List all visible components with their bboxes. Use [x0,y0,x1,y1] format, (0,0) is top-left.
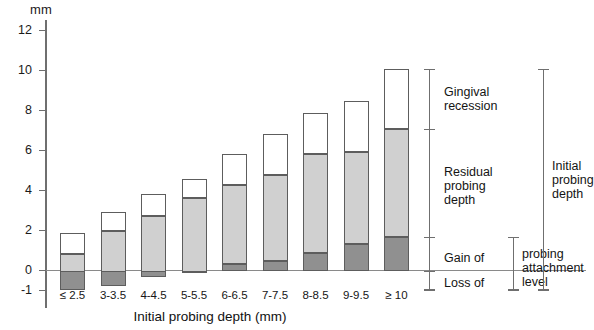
bracket-cap-top [424,69,435,70]
y-tick-2 [39,230,46,231]
bar-8-segment-gingival-recession [384,69,409,129]
bar-1-segment-attachment-level [101,271,126,286]
bracket-cap-top [508,237,519,238]
y-tick-12 [39,30,46,31]
y-tick-label--1: -1 [6,283,32,297]
bar-2-segment-residual-probing-depth [141,216,166,277]
x-category-label-4: 6-6.5 [213,289,256,301]
bar-4-segment-attachment-level [222,264,247,271]
y-tick-0 [39,270,46,271]
x-category-label-7: 9-9.5 [335,289,378,301]
bar-3-segment-gingival-recession [182,179,207,198]
bar-0-segment-gingival-recession [60,233,85,254]
bar-4-segment-gingival-recession [222,154,247,185]
bar-4 [222,154,247,264]
y-tick-10 [39,70,46,71]
y-tick-label-8: 8 [6,103,32,117]
bracket-stem [429,69,430,291]
bracket-cap-bottom [508,289,519,290]
bracket-main-scale [424,69,435,291]
y-tick-label-6: 6 [6,143,32,157]
bar-7-segment-gingival-recession [344,101,369,152]
bar-5 [263,134,288,261]
y-tick--1 [39,290,46,291]
bar-6 [303,113,328,253]
bar-7 [344,101,369,244]
bar-0-segment-attachment-level [60,271,85,290]
bar-8-segment-residual-probing-depth [384,129,409,237]
bracket-mid-tick [424,271,435,272]
bracket-probing-attachment-level [508,237,519,291]
y-axis-line [45,20,47,308]
x-category-label-2: 4-4.5 [132,289,175,301]
bracket-mid-tick [424,237,435,238]
bar-2-segment-attachment-level [141,271,166,277]
y-tick-label-12: 12 [6,23,32,37]
bracket-initial-probing-depth [538,69,549,291]
x-category-label-3: 5-5.5 [173,289,216,301]
bar-4-segment-residual-probing-depth [222,185,247,264]
bracket-cap-top [538,69,549,70]
bar-1-segment-gingival-recession [101,212,126,231]
annotation-label-initial-probing-depth: Initial probing depth [552,159,594,201]
bracket-mid-tick [424,129,435,130]
annotation-label-gain-of: Gain of [444,251,484,265]
x-category-label-0: ≤ 2.5 [51,289,94,301]
y-tick-label-0: 0 [6,263,32,277]
y-tick-label-10: 10 [6,63,32,77]
bar-2 [141,194,166,277]
bar-7-segment-residual-probing-depth [344,152,369,244]
y-tick-6 [39,150,46,151]
bar-6-segment-gingival-recession [303,113,328,154]
bar-8 [384,69,409,237]
bar-3-segment-attachment-level [182,271,207,273]
bar-8-segment-attachment-level [384,237,409,271]
bracket-cap-bottom [538,289,549,290]
x-category-label-6: 8-8.5 [294,289,337,301]
annotation-label-residual-probing-depth: Residual probing depth [444,165,493,207]
annotation-label-loss-of: Loss of [444,276,484,290]
bar-5-segment-residual-probing-depth [263,175,288,261]
x-category-label-8: ≥ 10 [375,289,418,301]
y-tick-4 [39,190,46,191]
bar-6-segment-residual-probing-depth [303,154,328,253]
annotation-label-gingival-recession: Gingival recession [444,85,498,113]
x-category-label-1: 3-3.5 [92,289,135,301]
bracket-stem [543,69,544,291]
bar-3 [182,179,207,272]
y-tick-8 [39,110,46,111]
bar-6-segment-attachment-level [303,253,328,271]
bar-5-segment-attachment-level [263,261,288,271]
annotation-label-probing-attachment-level: probing attachment level [522,247,584,289]
bracket-stem [513,237,514,291]
bar-3-segment-residual-probing-depth [182,198,207,272]
bar-7-segment-attachment-level [344,244,369,271]
y-tick-label-4: 4 [6,183,32,197]
bar-2-segment-gingival-recession [141,194,166,216]
bracket-cap-bottom [424,289,435,290]
y-tick-label-2: 2 [6,223,32,237]
x-category-label-5: 7-7.5 [254,289,297,301]
bar-5-segment-gingival-recession [263,134,288,175]
x-axis-title: Initial probing depth (mm) [0,309,420,324]
